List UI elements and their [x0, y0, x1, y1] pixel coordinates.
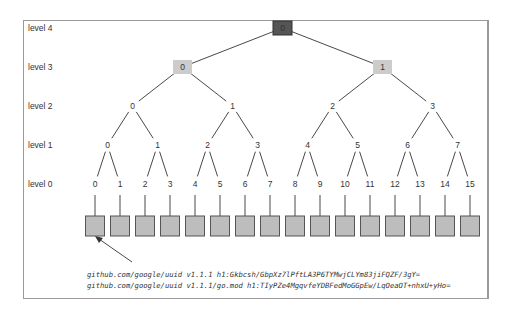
- node-label-level0-6: 6: [243, 179, 248, 189]
- level-labels: level 4 level 3 level 2 level 1 level 0: [28, 23, 53, 189]
- tree-edge: [147, 152, 155, 177]
- node-label-level1-2: 2: [205, 140, 210, 150]
- node-label-level0-3: 3: [168, 179, 173, 189]
- node-label-level0-11: 11: [366, 179, 375, 189]
- tree-edge: [347, 152, 355, 177]
- level-label-1: level 1: [28, 140, 53, 150]
- node-label-level1-0: 0: [105, 140, 110, 150]
- tree-edge: [410, 152, 418, 177]
- tree-edge: [197, 152, 205, 177]
- leaf-box: [136, 216, 155, 236]
- node-label-level0-15: 15: [465, 179, 475, 189]
- tree-edge: [397, 152, 405, 177]
- leaf-box: [386, 216, 405, 236]
- tree-edge: [192, 32, 273, 64]
- node-label-level1-3: 3: [255, 140, 260, 150]
- leaf-box: [211, 216, 230, 236]
- leaf-box: [111, 216, 130, 236]
- leaf-box: [461, 216, 480, 236]
- tree-edge: [160, 152, 168, 177]
- annotation-line-1: github.com/google/uuid v1.1.1 h1:Gkbcsh/…: [87, 270, 421, 279]
- level-label-0: level 0: [28, 179, 53, 189]
- node-label-level0-7: 7: [268, 179, 273, 189]
- tree-edge: [212, 112, 229, 138]
- node-label-level1-6: 6: [405, 140, 410, 150]
- tree-edge: [297, 152, 305, 177]
- tree-edge: [339, 73, 375, 101]
- node-label-level1-5: 5: [355, 140, 360, 150]
- node-label-level0-4: 4: [193, 179, 198, 189]
- tree-edge: [260, 152, 268, 177]
- level-label-4: level 4: [28, 23, 53, 33]
- tree-edge: [390, 73, 426, 101]
- node-label-level0-1: 1: [118, 179, 123, 189]
- node-label-level3-0: 0: [180, 62, 185, 72]
- tree-edge: [210, 152, 218, 177]
- leaf-box: [161, 216, 180, 236]
- leaf-boxes: [86, 216, 480, 236]
- tree-edges: [95, 32, 470, 216]
- tree-edge: [136, 112, 153, 138]
- leaf-box: [436, 216, 455, 236]
- tree-edge: [312, 112, 329, 138]
- node-label-level3-1: 1: [380, 62, 385, 72]
- tree-edge: [412, 112, 429, 138]
- tree-edge: [436, 112, 453, 138]
- tree-edge: [247, 152, 255, 177]
- node-label-level0-8: 8: [293, 179, 298, 189]
- node-label-level0-13: 13: [415, 179, 425, 189]
- tree-edge: [360, 152, 368, 177]
- level-label-3: level 3: [28, 62, 53, 72]
- tree-edge: [112, 112, 129, 138]
- node-label-level0-2: 2: [143, 179, 148, 189]
- tree-edge: [336, 112, 353, 138]
- leaf-box: [261, 216, 280, 236]
- tree-edge: [190, 73, 226, 101]
- annotation-line-2: github.com/google/uuid v1.1.1/go.mod h1:…: [87, 281, 451, 290]
- node-label-level0-0: 0: [93, 179, 98, 189]
- tree-edge: [460, 152, 468, 177]
- node-label-level2-0: 0: [130, 101, 135, 111]
- leaf-box: [286, 216, 305, 236]
- node-label-level1-1: 1: [155, 140, 160, 150]
- node-label-level2-1: 1: [230, 101, 235, 111]
- node-label-level0-5: 5: [218, 179, 223, 189]
- leaf-box: [411, 216, 430, 236]
- node-label-level0-10: 10: [340, 179, 350, 189]
- tree-edge: [447, 152, 455, 177]
- leaf-box: [236, 216, 255, 236]
- tree-edge: [310, 152, 318, 177]
- tree-edge: [110, 152, 118, 177]
- leaf-box: [361, 216, 380, 236]
- node-label-level0-14: 14: [440, 179, 450, 189]
- node-label-level2-3: 3: [430, 101, 435, 111]
- node-label-level0-12: 12: [390, 179, 400, 189]
- tree-edge: [236, 112, 253, 138]
- node-label-level1-7: 7: [455, 140, 460, 150]
- leaf-box: [311, 216, 330, 236]
- tree-edge: [97, 152, 105, 177]
- leaf-box: [86, 216, 105, 236]
- node-label-level4-0: 0: [280, 23, 285, 33]
- level-label-2: level 2: [28, 101, 53, 111]
- node-label-level0-9: 9: [318, 179, 323, 189]
- tree-edge: [139, 73, 175, 101]
- tree-nodes: 0123456789101112131415012345670123010: [93, 21, 475, 189]
- arrow-icon: [95, 236, 132, 262]
- merkle-tree-diagram: level 4 level 3 level 2 level 1 level 0 …: [0, 0, 510, 318]
- node-label-level2-2: 2: [330, 101, 335, 111]
- leaf-box: [336, 216, 355, 236]
- leaf-box: [186, 216, 205, 236]
- node-label-level1-4: 4: [305, 140, 310, 150]
- tree-edge: [292, 32, 373, 64]
